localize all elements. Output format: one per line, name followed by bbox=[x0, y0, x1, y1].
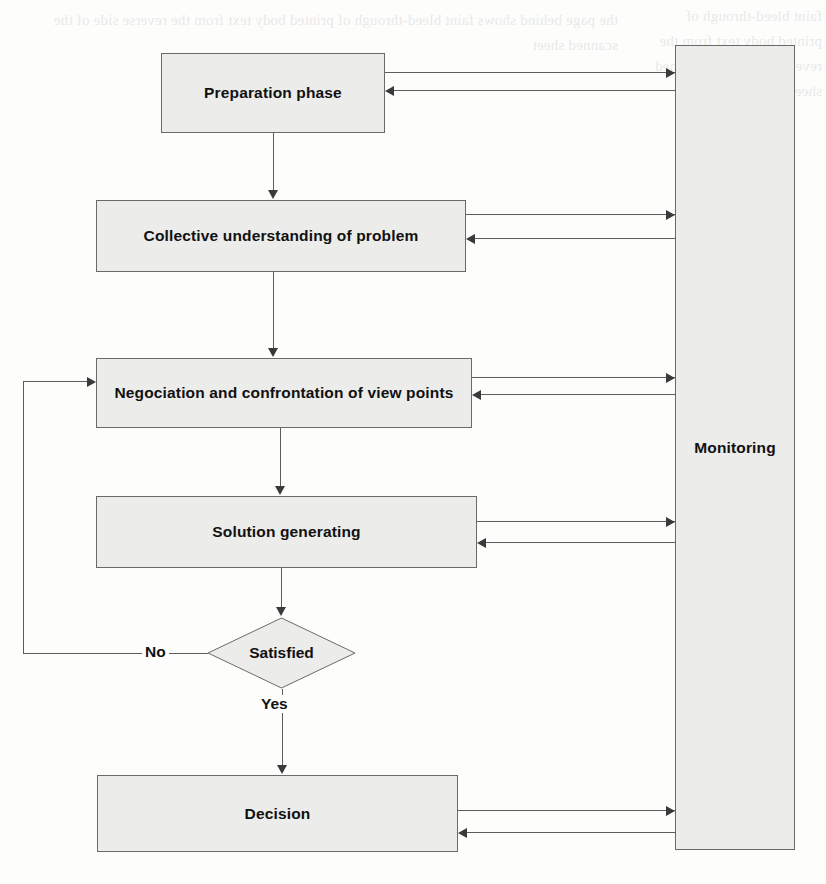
node-collective-understanding[interactable]: Collective understanding of problem bbox=[96, 200, 466, 272]
edge-monitoring-to-preparation-in-arrow bbox=[385, 86, 394, 96]
edge-satisfied-to-decision-arrow bbox=[277, 765, 287, 774]
edge-collective-to-negociation-arrow bbox=[268, 348, 278, 357]
edge-monitoring-to-negociation-in-arrow bbox=[472, 390, 481, 400]
edge-preparation-to-monitoring-out bbox=[385, 72, 676, 73]
edge-preparation-to-collective-arrow bbox=[268, 190, 278, 199]
edge-monitoring-to-collective-in-arrow bbox=[466, 234, 475, 244]
edge-negociation-to-monitoring-out-arrow bbox=[666, 373, 675, 383]
node-preparation-phase[interactable]: Preparation phase bbox=[161, 53, 385, 133]
edge-monitoring-to-preparation-in bbox=[394, 90, 676, 91]
node-negociation-confrontation[interactable]: Negociation and confrontation of view po… bbox=[96, 358, 472, 428]
edge-no-horizontal-bottom bbox=[23, 653, 208, 654]
node-satisfied-decision[interactable]: Satisfied bbox=[207, 617, 356, 689]
edge-solution-to-monitoring-out-arrow bbox=[666, 517, 675, 527]
edge-solution-to-satisfied-arrow bbox=[276, 607, 286, 616]
flowchart-page: the page behind shows faint bleed-throug… bbox=[0, 0, 826, 884]
edge-solution-to-satisfied-line bbox=[281, 568, 282, 608]
edge-preparation-to-monitoring-out-arrow bbox=[666, 68, 675, 78]
edge-preparation-to-collective-line bbox=[273, 133, 274, 191]
edge-monitoring-to-solution-in bbox=[486, 542, 676, 543]
edge-collective-to-monitoring-out-arrow bbox=[666, 210, 675, 220]
edge-negociation-to-solution-line bbox=[280, 428, 281, 486]
node-solution-generating[interactable]: Solution generating bbox=[96, 496, 477, 568]
edge-solution-to-monitoring-out bbox=[477, 521, 676, 522]
edge-collective-to-monitoring-out bbox=[466, 214, 676, 215]
edge-no-arrow-into-negociation bbox=[87, 377, 96, 387]
edge-decision-to-monitoring-out bbox=[458, 810, 676, 811]
edge-monitoring-to-solution-in-arrow bbox=[477, 538, 486, 548]
edge-no-horizontal-top bbox=[23, 381, 89, 382]
edge-label-no: No bbox=[142, 643, 169, 661]
edge-monitoring-to-decision-in-arrow bbox=[458, 828, 467, 838]
edge-monitoring-to-decision-in bbox=[467, 832, 676, 833]
edge-collective-to-negociation-line bbox=[273, 272, 274, 349]
edge-monitoring-to-negociation-in bbox=[481, 394, 676, 395]
edge-decision-to-monitoring-out-arrow bbox=[666, 806, 675, 816]
edge-no-vertical bbox=[23, 381, 24, 653]
node-monitoring[interactable]: Monitoring bbox=[675, 45, 795, 850]
edge-monitoring-to-collective-in bbox=[475, 238, 676, 239]
edge-negociation-to-solution-arrow bbox=[275, 486, 285, 495]
edge-negociation-to-monitoring-out bbox=[472, 377, 676, 378]
node-decision[interactable]: Decision bbox=[97, 775, 458, 852]
bleed-through-left-column: the page behind shows faint bleed-throug… bbox=[18, 8, 618, 58]
edge-label-yes: Yes bbox=[258, 695, 291, 713]
